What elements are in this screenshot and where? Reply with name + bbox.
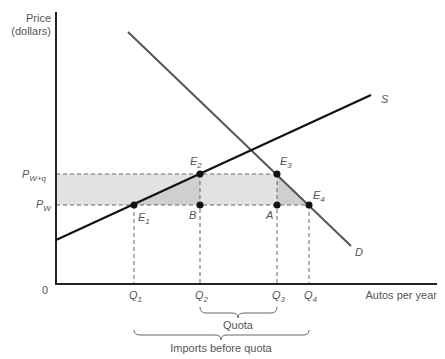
q1-label: Q1: [129, 289, 142, 304]
supply-curve: [56, 95, 371, 240]
x-axis-label: Autos per year: [365, 289, 437, 301]
point-e3: [274, 171, 281, 178]
price-label-pwq: PW+q: [22, 168, 47, 183]
label-e1: E1: [138, 211, 150, 226]
q2-label: Q2: [195, 289, 209, 304]
imports-label: Imports before quota: [170, 342, 272, 354]
point-e1: [131, 202, 138, 209]
origin-label: 0: [42, 284, 48, 296]
label-e2: E2: [190, 155, 202, 170]
price-label-pw: PW: [36, 198, 52, 213]
supply-label: S: [381, 93, 389, 105]
quota-diagram: Price (dollars) Autos per year 0 PW+q PW…: [0, 0, 445, 359]
q4-label: Q4: [304, 289, 318, 304]
label-e4: E4: [313, 189, 325, 204]
point-b: [197, 202, 204, 209]
label-b: B: [189, 209, 196, 221]
y-axis-label-line2: (dollars): [11, 25, 51, 37]
quota-label: Quota: [223, 319, 254, 331]
point-e2: [197, 171, 204, 178]
imports-brace: [134, 330, 309, 340]
label-e3: E3: [280, 155, 292, 170]
q3-label: Q3: [272, 289, 286, 304]
demand-label: D: [355, 246, 363, 258]
point-a: [274, 202, 281, 209]
point-e4: [306, 202, 313, 209]
demand-curve: [128, 32, 351, 246]
label-a: A: [265, 209, 273, 221]
y-axis-label-line1: Price: [26, 12, 51, 24]
quota-brace: [200, 307, 277, 318]
